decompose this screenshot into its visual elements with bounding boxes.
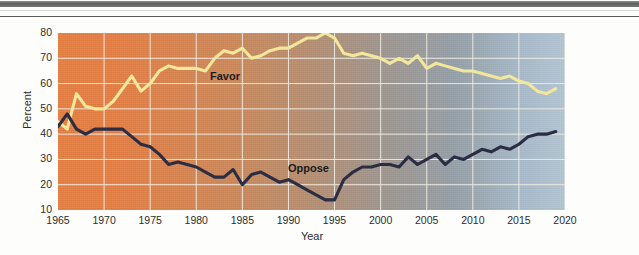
y-tick-20: 20: [10, 178, 52, 190]
series-line-oppose: [58, 114, 556, 200]
x-tick-1985: 1985: [218, 214, 266, 226]
series-label-oppose: Oppose: [288, 162, 329, 174]
x-axis-label: Year: [282, 230, 342, 242]
x-tick-1965: 1965: [34, 214, 82, 226]
y-tick-50: 50: [10, 102, 52, 114]
x-tick-2000: 2000: [357, 214, 405, 226]
x-tick-2020: 2020: [541, 214, 589, 226]
x-tick-1975: 1975: [126, 214, 174, 226]
y-tick-40: 40: [10, 127, 52, 139]
x-tick-2005: 2005: [403, 214, 451, 226]
series-line-favor: [58, 33, 556, 129]
x-tick-2015: 2015: [495, 214, 543, 226]
chart-page: Percent Year 1020304050607080 1965197019…: [0, 0, 639, 255]
series-label-favor: Favor: [210, 70, 240, 82]
header-rule-thick: [0, 1, 639, 7]
chart-plot-area: [58, 33, 565, 210]
header-rule-faint: [0, 10, 639, 11]
y-tick-30: 30: [10, 152, 52, 164]
y-tick-80: 80: [10, 26, 52, 38]
x-tick-1990: 1990: [264, 214, 312, 226]
y-tick-60: 60: [10, 77, 52, 89]
x-tick-1995: 1995: [311, 214, 359, 226]
x-tick-1970: 1970: [80, 214, 128, 226]
header-rule-thin: [0, 16, 639, 17]
y-tick-70: 70: [10, 51, 52, 63]
x-tick-2010: 2010: [449, 214, 497, 226]
chart-series-lines: [58, 33, 565, 210]
x-tick-1980: 1980: [172, 214, 220, 226]
